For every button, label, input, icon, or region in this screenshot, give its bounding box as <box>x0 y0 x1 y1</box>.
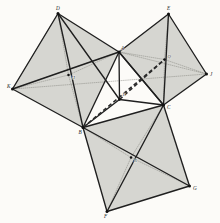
point-dot-A <box>118 51 121 54</box>
square-faces <box>13 14 207 212</box>
point-label-C: C <box>167 104 171 110</box>
point-label-E: E <box>166 5 171 11</box>
point-dot-Q <box>163 58 166 61</box>
point-label-R: R <box>133 158 137 163</box>
point-label-K: K <box>6 83 11 89</box>
point-dot-E <box>167 13 170 16</box>
point-dot-J <box>205 73 208 76</box>
point-dot-G <box>188 185 191 188</box>
point-label-H: H <box>71 75 76 80</box>
geometry-figure: ABCDEFGKJPHQR <box>0 0 220 223</box>
point-dot-D <box>57 12 60 15</box>
point-dot-P <box>118 98 121 101</box>
point-label-P: P <box>122 92 126 97</box>
point-label-D: D <box>55 5 60 11</box>
point-label-G: G <box>193 185 197 191</box>
geometry-canvas: ABCDEFGKJPHQR <box>0 0 220 223</box>
square-face-on-AC <box>119 14 207 105</box>
point-dot-R <box>130 156 133 159</box>
point-label-J: J <box>210 71 213 77</box>
solid-segment <box>119 52 120 100</box>
point-label-B: B <box>79 129 83 135</box>
point-dot-C <box>162 104 165 107</box>
point-dot-H <box>67 74 70 77</box>
solid-segment <box>120 100 164 106</box>
point-label-F: F <box>103 213 108 219</box>
point-dot-K <box>11 88 14 91</box>
point-dot-B <box>82 126 85 129</box>
